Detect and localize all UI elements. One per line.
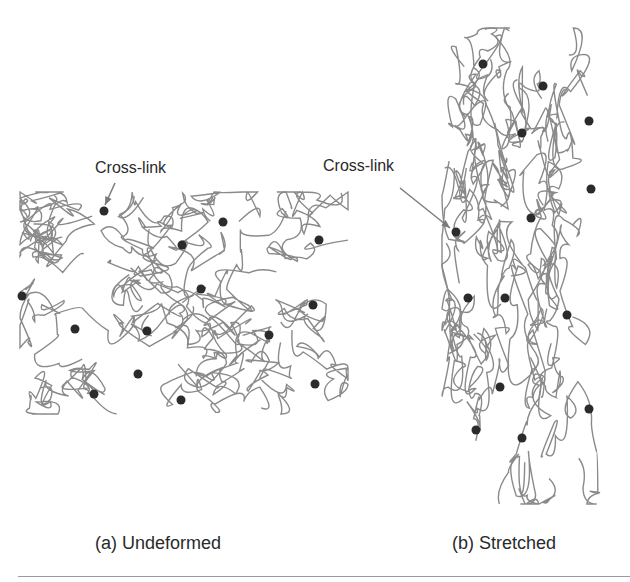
crosslink-dot xyxy=(464,294,473,303)
polymer-network-figure: Cross-link Cross-link (a) Undeformed (b)… xyxy=(0,0,630,582)
bottom-divider xyxy=(18,576,630,577)
crosslink-dot xyxy=(177,396,186,405)
crosslink-label-a: Cross-link xyxy=(95,159,166,177)
crosslink-dot xyxy=(309,301,318,310)
network-drawing xyxy=(0,0,630,582)
crosslink-dot xyxy=(18,292,27,301)
crosslink-dot xyxy=(496,383,505,392)
crosslink-dot xyxy=(315,236,324,245)
crosslink-dot xyxy=(472,426,481,435)
crosslink-dot xyxy=(518,129,527,138)
crosslink-dot xyxy=(585,405,594,414)
caption-undeformed: (a) Undeformed xyxy=(95,533,221,554)
crosslink-dot xyxy=(219,218,228,227)
crosslink-dot xyxy=(100,207,109,216)
crosslink-dot xyxy=(452,228,461,237)
crosslink-dot xyxy=(197,285,206,294)
crosslink-dot xyxy=(527,214,536,223)
crosslink-dot xyxy=(143,327,152,336)
caption-stretched: (b) Stretched xyxy=(452,533,556,554)
crosslink-label-b: Cross-link xyxy=(323,157,394,175)
crosslink-dot xyxy=(479,60,488,69)
crosslink-dot xyxy=(563,311,572,320)
crosslink-dot xyxy=(587,185,596,194)
chain-network-undeformed xyxy=(20,192,348,414)
crosslink-dot xyxy=(265,331,274,340)
chain-network-stretched xyxy=(442,28,600,504)
crosslink-dot xyxy=(134,370,143,379)
crosslink-dot xyxy=(518,434,527,443)
crosslink-dot xyxy=(501,294,510,303)
crosslink-dot xyxy=(90,390,99,399)
crosslink-dot xyxy=(178,241,187,250)
crosslink-dot xyxy=(311,380,320,389)
crosslink-dot xyxy=(585,117,594,126)
crosslink-dot xyxy=(71,325,80,334)
crosslink-dot xyxy=(539,82,548,91)
